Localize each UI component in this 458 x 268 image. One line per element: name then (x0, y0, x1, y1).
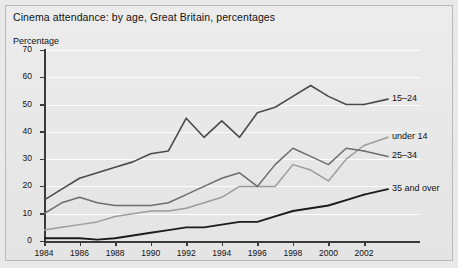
x-tick (328, 242, 330, 246)
series-leader-line (364, 189, 388, 194)
y-tick-label: 40 (6, 126, 32, 136)
page-title: Cinema attendance: by age, Great Britain… (13, 11, 275, 23)
x-axis-line (44, 241, 420, 243)
x-tick (44, 242, 46, 246)
x-tick-label: 1986 (70, 248, 89, 258)
y-tick-label: 60 (6, 71, 32, 81)
x-tick-label: 1988 (106, 248, 125, 258)
x-tick-label: 1990 (141, 248, 160, 258)
y-tick-label: 10 (6, 208, 32, 218)
x-tick-label: 1998 (283, 248, 302, 258)
y-tick-label: 50 (6, 99, 32, 109)
x-tick-label: 2000 (319, 248, 338, 258)
x-tick (364, 242, 366, 246)
y-tick-label: 70 (6, 44, 32, 54)
x-tick (186, 242, 188, 246)
y-tick-label: 30 (6, 153, 32, 163)
x-tick-label: 1996 (248, 248, 267, 258)
x-tick (293, 242, 295, 246)
y-tick-label: 0 (6, 235, 32, 245)
series-label-15-24: 15–24 (392, 93, 417, 103)
series-label-35-and-over: 35 and over (392, 183, 440, 193)
y-tick-label: 20 (6, 180, 32, 190)
series-line (44, 85, 364, 200)
x-tick (222, 242, 224, 246)
x-tick-label: 1994 (212, 248, 231, 258)
x-tick (115, 242, 117, 246)
x-tick-label: 1992 (177, 248, 196, 258)
series-label-under-14: under 14 (392, 131, 428, 141)
chart-figure: Cinema attendance: by age, Great Britain… (0, 0, 458, 268)
series-label-25-34: 25–34 (392, 150, 417, 160)
series-leader-line (364, 99, 388, 104)
x-tick-label: 2002 (355, 248, 374, 258)
x-tick (257, 242, 259, 246)
x-tick (151, 242, 153, 246)
x-tick-label: 1984 (35, 248, 54, 258)
series-leader-line (364, 151, 388, 156)
x-tick (80, 242, 82, 246)
series-lines (44, 50, 420, 241)
series-leader-line (364, 137, 388, 145)
series-line (44, 148, 364, 213)
